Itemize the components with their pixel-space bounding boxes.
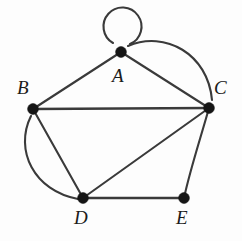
vertex-label-b: B: [17, 78, 29, 97]
vertex-dot-d: [78, 193, 89, 204]
graph-diagram: A B C D E: [0, 0, 242, 241]
edge-c-d: [83, 108, 209, 198]
vertex-label-c: C: [214, 78, 227, 97]
vertex-label-e: E: [176, 208, 188, 227]
edge-c-e: [184, 108, 209, 198]
vertex-dot-c: [204, 103, 215, 114]
graph-canvas: [0, 0, 242, 241]
edge-self-loop-a: [103, 8, 141, 44]
vertex-dot-a: [116, 47, 127, 58]
edge-b-d-curved: [25, 116, 78, 199]
vertex-dot-e: [179, 193, 190, 204]
vertex-label-a: A: [112, 66, 124, 85]
edge-a-b: [33, 52, 121, 109]
vertex-dot-b: [28, 104, 39, 115]
edge-a-c-curved: [128, 41, 212, 100]
edge-b-d-straight: [33, 109, 83, 198]
vertex-label-d: D: [74, 208, 88, 227]
edge-layer: [25, 8, 212, 199]
edge-b-c: [33, 108, 209, 109]
